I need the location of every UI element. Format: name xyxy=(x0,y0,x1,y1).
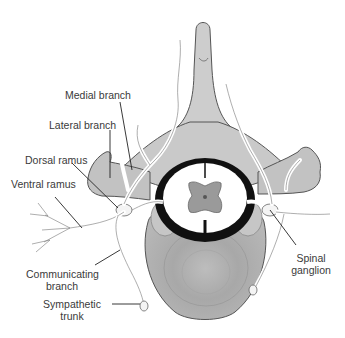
left-ventral-ramus xyxy=(30,203,124,252)
label-spinal-ganglion: Spinal ganglion xyxy=(286,252,336,276)
left-sympathetic-ganglion xyxy=(140,301,148,311)
central-canal xyxy=(203,195,207,199)
label-dorsal-ramus: Dorsal ramus xyxy=(25,154,87,166)
label-medial-branch: Medial branch xyxy=(65,89,131,101)
spinous-process xyxy=(176,23,232,129)
label-ventral-ramus: Ventral ramus xyxy=(11,178,76,190)
label-sympathetic-trunk: Sympathetic trunk xyxy=(40,298,104,322)
label-lateral-branch: Lateral branch xyxy=(49,119,116,131)
label-communicating-branch: Communicating branch xyxy=(26,268,98,292)
right-sympathetic-ganglion xyxy=(249,285,257,295)
